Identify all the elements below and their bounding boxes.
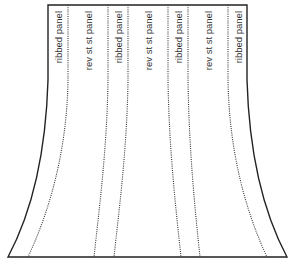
seam-line-5 [188, 5, 200, 257]
panel-label-1: ribbed panel [53, 11, 64, 63]
panel-label-3: ribbed panel [113, 11, 124, 63]
seam-line-2 [94, 5, 108, 257]
skirt-diagram: ribbed panel rev st st panel ribbed pane… [0, 0, 295, 269]
panel-label-4: rev st st panel [143, 11, 154, 70]
panel-label-7: ribbed panel [233, 11, 244, 63]
panel-label-6: rev st st panel [203, 11, 214, 70]
panel-label-2: rev st st panel [83, 11, 94, 70]
panel-label-5: ribbed panel [173, 11, 184, 63]
